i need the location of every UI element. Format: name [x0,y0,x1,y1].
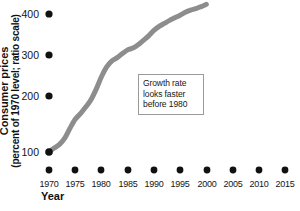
x-axis-label-2000: 2000 [193,179,221,189]
x-tick-dot-1995 [177,167,184,174]
x-tick-dot-1980 [98,167,105,174]
x-axis-label-2010: 2010 [245,179,273,189]
x-axis-tick-markers [46,167,289,174]
x-axis-label-1990: 1990 [140,179,168,189]
x-tick-dot-1990 [151,167,158,174]
y-axis-label-300: 300 [13,49,39,61]
x-tick-dot-2015 [282,167,289,174]
annotation-callout: Growth rate looks faster before 1980 [138,74,204,115]
x-tick-dot-2010 [256,167,263,174]
x-tick-dot-1970 [46,167,53,174]
y-tick-dot-400 [45,10,52,17]
y-axis-label-200: 200 [13,90,39,102]
y-axis-label-400: 400 [13,8,39,20]
x-axis-label-2005: 2005 [219,179,247,189]
annotation-line-3: before 1980 [143,99,199,110]
x-axis-label-1985: 1985 [114,179,142,189]
x-tick-dot-1985 [125,167,132,174]
y-tick-dot-100 [45,148,53,156]
x-tick-dot-2000 [204,167,211,174]
x-axis-label-1975: 1975 [61,179,89,189]
x-axis-title: Year [41,190,64,202]
annotation-line-1: Growth rate [143,78,199,89]
x-tick-dot-2005 [230,167,237,174]
y-tick-dot-200 [45,92,52,99]
y-axis-tick-markers [45,10,53,155]
x-axis-label-1970: 1970 [35,179,63,189]
y-axis-label-100: 100 [13,146,39,158]
chart-container: Consumer prices (percent of 1970 level; … [0,0,300,211]
x-axis-label-1995: 1995 [166,179,194,189]
x-tick-dot-1975 [72,167,79,174]
x-axis-label-1980: 1980 [87,179,115,189]
annotation-line-2: looks faster [143,89,199,100]
x-axis-label-2015: 2015 [271,179,299,189]
y-tick-dot-300 [45,51,52,58]
